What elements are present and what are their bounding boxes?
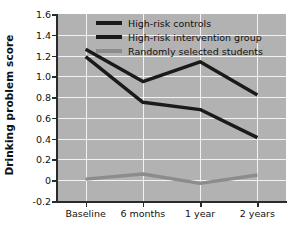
y-axis-tick-mark xyxy=(52,56,57,58)
drinking-problem-score-line-chart: Drinking problem score 1.61.41.21.00.80.… xyxy=(0,0,298,238)
y-axis-tick-label: 1.2 xyxy=(36,50,51,61)
y-axis-tick-label: 0.6 xyxy=(36,112,51,123)
y-axis-tick-mark xyxy=(52,76,57,78)
y-axis-tick-mark xyxy=(52,35,57,37)
y-axis-tick-mark xyxy=(52,180,57,182)
y-axis-title: Drinking problem score xyxy=(0,0,18,210)
y-axis-tick-mark xyxy=(52,159,57,161)
x-axis-tick-mark xyxy=(86,202,88,207)
legend-entry: High-risk controls xyxy=(96,17,263,29)
y-axis-tick-mark xyxy=(52,14,57,16)
legend-entry: High-risk intervention group xyxy=(96,31,263,43)
y-axis-tick-mark xyxy=(52,97,57,99)
series-line xyxy=(86,57,258,138)
y-axis-tick-label: 0.8 xyxy=(36,92,51,103)
chart-legend: High-risk controlsHigh-risk intervention… xyxy=(96,17,263,57)
legend-label: Randomly selected students xyxy=(128,46,263,57)
legend-label: High-risk intervention group xyxy=(128,32,262,43)
y-axis-tick-label: 0.2 xyxy=(36,154,51,165)
y-axis-tick-label: -0.2 xyxy=(32,196,51,207)
x-axis-tick-label: 6 months xyxy=(120,208,165,219)
x-axis-tick-mark xyxy=(200,202,202,207)
y-axis-title-label: Drinking problem score xyxy=(3,34,15,175)
legend-color-swatch xyxy=(96,21,122,25)
y-axis-tick-label: 1.4 xyxy=(36,29,51,40)
x-axis-tick-mark xyxy=(143,202,145,207)
x-axis-tick-label: 2 years xyxy=(240,208,275,219)
y-axis-tick-label: 1.0 xyxy=(36,71,51,82)
x-axis-tick-label: Baseline xyxy=(65,208,105,219)
x-axis-line xyxy=(56,201,287,203)
y-axis-tick-mark xyxy=(52,139,57,141)
x-axis-tick-label: 1 year xyxy=(185,208,215,219)
series-line xyxy=(86,174,258,183)
legend-label: High-risk controls xyxy=(128,18,211,29)
y-axis-tick-label: 0.4 xyxy=(36,133,51,144)
y-axis-tick-mark xyxy=(52,118,57,120)
y-axis-tick-label: 0 xyxy=(45,175,51,186)
y-axis-tick-label: 1.6 xyxy=(36,9,51,20)
y-axis-tick-labels: 1.61.41.21.00.80.60.40.20-0.2 xyxy=(18,14,54,201)
x-axis-tick-mark xyxy=(257,202,259,207)
legend-entry: Randomly selected students xyxy=(96,45,263,57)
y-axis-line xyxy=(56,14,58,202)
y-axis-tick-mark xyxy=(52,201,57,203)
x-axis-tick-labels: Baseline6 months1 year2 years xyxy=(57,208,286,228)
legend-color-swatch xyxy=(96,49,122,53)
legend-color-swatch xyxy=(96,35,122,39)
